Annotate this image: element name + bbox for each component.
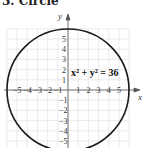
y-tick-label: 5 <box>62 35 66 44</box>
y-tick-label: −5 <box>59 137 68 146</box>
x-tick-label: −4 <box>23 86 32 95</box>
x-tick-label: 1 <box>76 86 80 95</box>
x-tick-label: 3 <box>97 86 101 95</box>
x-tick-label: −5 <box>13 86 22 95</box>
x-tick-label: −3 <box>33 86 42 95</box>
x-tick-label: −2 <box>44 86 53 95</box>
x-tick-label: 4 <box>107 86 111 95</box>
equation-label: x² + y² = 36 <box>71 67 118 78</box>
y-tick-label: 2 <box>62 66 66 75</box>
circle-graph: −5−4−3−2−11234554321−1−2−3−4−5 x y x² + … <box>0 0 144 148</box>
y-tick-label: −4 <box>59 127 68 136</box>
y-axis-label: y <box>57 11 62 21</box>
y-tick-label: 4 <box>62 45 66 54</box>
y-axis-arrow-icon <box>66 14 70 20</box>
tick-labels: −5−4−3−2−11234554321−1−2−3−4−5 <box>13 35 121 146</box>
y-tick-label: −1 <box>59 96 68 105</box>
y-tick-label: −3 <box>59 117 68 126</box>
y-tick-label: −2 <box>59 106 68 115</box>
axes <box>4 14 140 148</box>
x-tick-label: −1 <box>54 86 63 95</box>
x-tick-label: 2 <box>86 86 90 95</box>
y-tick-label: 1 <box>62 76 66 85</box>
x-tick-label: 5 <box>117 86 121 95</box>
y-tick-label: 3 <box>62 55 66 64</box>
x-axis-label: x <box>137 92 142 102</box>
